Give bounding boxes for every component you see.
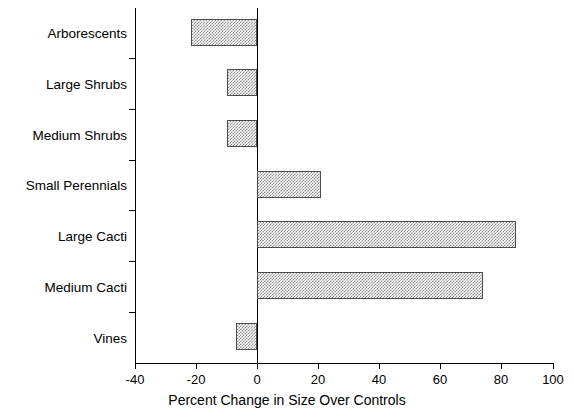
bar-large-cacti <box>257 221 516 248</box>
x-axis-title: Percent Change in Size Over Controls <box>0 392 574 409</box>
x-axis-tick <box>440 363 441 369</box>
x-axis-tick-label: 100 <box>523 372 574 387</box>
bar-vines <box>236 323 257 350</box>
bar-large-shrubs <box>227 69 258 96</box>
x-axis-tick <box>135 363 136 369</box>
y-axis-category-label: Large Cacti <box>58 229 127 245</box>
x-axis-tick <box>379 363 380 369</box>
x-axis-tick <box>318 363 319 369</box>
y-axis-category-label: Medium Shrubs <box>32 128 127 144</box>
y-axis-category-label: Large Shrubs <box>46 77 127 93</box>
x-axis-tick <box>553 363 554 369</box>
x-axis-tick <box>196 363 197 369</box>
x-axis-tick-label: -40 <box>105 372 165 387</box>
y-axis-tick <box>129 109 135 110</box>
x-axis-tick-label: 60 <box>410 372 470 387</box>
y-axis-category-label: Arborescents <box>47 26 127 42</box>
y-axis-category-label: Vines <box>93 331 127 347</box>
x-axis-tick-label: 80 <box>471 372 531 387</box>
bar-arborescents <box>191 19 257 46</box>
x-axis-tick-label: 40 <box>349 372 409 387</box>
bar-small-perennials <box>257 171 321 198</box>
y-axis-category-label: Small Perennials <box>26 178 127 194</box>
x-axis-tick <box>501 363 502 369</box>
bar-chart: Arborescents Large Shrubs Medium Shrubs … <box>0 0 574 420</box>
y-axis-tick <box>129 210 135 211</box>
x-axis-line <box>135 363 554 364</box>
y-axis-line <box>135 8 136 363</box>
y-axis-tick <box>129 58 135 59</box>
y-axis-tick <box>129 160 135 161</box>
y-axis-category-label: Medium Cacti <box>44 280 127 296</box>
x-axis-tick-label: 0 <box>227 372 287 387</box>
x-axis-tick-label: -20 <box>166 372 226 387</box>
bar-medium-shrubs <box>227 120 258 147</box>
y-axis-tick <box>129 312 135 313</box>
bar-medium-cacti <box>257 272 483 299</box>
x-axis-tick-label: 20 <box>288 372 348 387</box>
x-axis-tick <box>257 363 258 369</box>
y-axis-tick <box>129 261 135 262</box>
